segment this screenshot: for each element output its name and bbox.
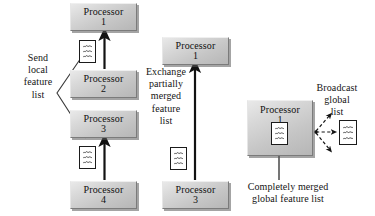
- processor-number: 1: [71, 17, 136, 27]
- feature-list-broadcast: [339, 120, 357, 145]
- caption-exchange-partially-merged-feature-list: Exchange partially merged feature list: [138, 66, 194, 127]
- feature-list-row: [174, 162, 183, 165]
- feature-list-row: [275, 132, 284, 135]
- caption-completely-merged-global-feature-list: Completely merged global feature list: [223, 181, 353, 205]
- processor-box-p1-middle[interactable]: Processor 1: [162, 37, 229, 65]
- broadcast-fan-origin: [314, 130, 318, 134]
- caption-broadcast-global-list: Broadcast global list: [306, 82, 368, 119]
- arrow-broadcast-down: [316, 133, 330, 150]
- feature-list-row: [83, 45, 92, 48]
- caption-send-local-feature-list: Send local feature list: [10, 52, 66, 101]
- processor-number: 2: [71, 84, 136, 94]
- figure-canvas: Processor 1 Processor 2 Processor 3 Pro: [0, 0, 375, 216]
- feature-list-row: [343, 131, 353, 134]
- feature-list-row: [83, 55, 92, 58]
- feature-list-row: [275, 127, 284, 130]
- feature-list-row: [275, 137, 284, 140]
- processor-box-p1-top[interactable]: Processor 1: [70, 3, 137, 31]
- processor-box-p4[interactable]: Processor 4: [70, 181, 137, 209]
- feature-list-row: [83, 50, 92, 53]
- feature-list-partial-p3: [170, 147, 187, 170]
- feature-list-row: [174, 157, 183, 160]
- feature-list-global-inside-p1: [271, 122, 288, 145]
- processor-number: 4: [71, 195, 136, 205]
- feature-list-row: [83, 151, 92, 154]
- processor-number: 1: [163, 51, 228, 61]
- feature-list-local-p2: [79, 40, 96, 63]
- feature-list-row: [343, 137, 353, 140]
- feature-list-row: [174, 152, 183, 155]
- feature-list-row: [343, 126, 353, 129]
- feature-list-local-p4: [79, 146, 96, 169]
- feature-list-row: [83, 156, 92, 159]
- processor-number: 3: [71, 124, 136, 134]
- processor-box-p2[interactable]: Processor 2: [70, 70, 137, 98]
- processor-box-p3[interactable]: Processor 3: [70, 110, 137, 138]
- processor-box-p3-middle[interactable]: Processor 3: [162, 181, 229, 209]
- feature-list-row: [83, 161, 92, 164]
- processor-number: 3: [163, 195, 228, 205]
